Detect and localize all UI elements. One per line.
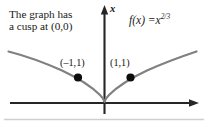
point-label-left: (–1,1): [60, 57, 85, 68]
horizontal-axis-arrowhead: [189, 99, 199, 107]
curve-left-branch: [9, 52, 105, 102]
caption-text: The graph has a cusp at (0,0): [9, 8, 72, 32]
marked-point-right: [126, 73, 134, 81]
cusp-function-figure: The graph has a cusp at (0,0) x f(x) =x2…: [0, 0, 208, 126]
marked-point-left: [74, 73, 82, 81]
point-label-right: (1,1): [110, 57, 130, 68]
function-formula: f(x) =x2/3: [129, 14, 170, 26]
caption-line-1: The graph has: [9, 8, 72, 20]
formula-exponent: 2/3: [161, 12, 170, 21]
vertical-axis-label: x: [110, 3, 115, 14]
caption-line-2: a cusp at (0,0): [9, 20, 72, 32]
vertical-axis-arrowhead: [101, 5, 108, 15]
formula-left-side: f(x) =: [129, 14, 156, 26]
